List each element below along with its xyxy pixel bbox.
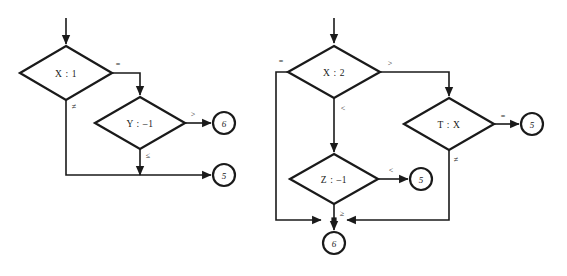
edge-x2-greater-to-tx [380, 72, 449, 96]
edge-label-less-z: < [389, 166, 394, 175]
edge-x2-equals-to-merge [276, 72, 321, 220]
decision-x-2-label: X : 2 [323, 68, 345, 78]
decision-x-1-label: X : 1 [55, 69, 77, 79]
edge-label-not-equals-tx: ≠ [454, 155, 459, 164]
edge-label-greater: > [191, 110, 196, 119]
flowchart-svg: X : 1 Y : –1 6 5 = ≠ > ≤ [0, 0, 567, 276]
diagram-canvas: X : 1 Y : –1 6 5 = ≠ > ≤ [0, 0, 567, 276]
terminal-6-label: 6 [222, 119, 227, 129]
decision-z-minus-1-label: Z : –1 [321, 175, 347, 185]
right-flowchart: X : 2 T : X Z : –1 5 5 6 = > < = ≠ < ≥ [276, 18, 543, 254]
merge-junction [331, 217, 336, 222]
terminal-5-label: 5 [222, 171, 227, 181]
edge-label-not-equals: ≠ [72, 102, 77, 111]
edge-label-less-x2: < [341, 104, 346, 113]
terminal-5-right-upper-label: 5 [530, 120, 535, 130]
edge-x1-equals-to-y1 [112, 73, 140, 95]
edge-label-greater-equal-z: ≥ [340, 209, 345, 218]
left-flowchart: X : 1 Y : –1 6 5 = ≠ > ≤ [20, 18, 235, 186]
decision-t-x-label: T : X [438, 120, 461, 130]
edge-label-equals-left: = [279, 57, 284, 66]
edge-label-equals: = [116, 60, 121, 69]
terminal-5-right-lower-label: 5 [419, 175, 424, 185]
edge-label-greater-right: > [388, 59, 393, 68]
terminal-6-bottom-label: 6 [332, 239, 337, 249]
edge-label-equals-tx: = [501, 112, 506, 121]
edge-label-less-equal: ≤ [146, 151, 151, 160]
decision-y-minus-1-label: Y : –1 [127, 119, 154, 129]
